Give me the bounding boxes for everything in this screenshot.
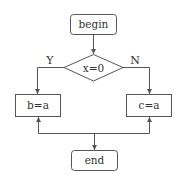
right-process-node: c=a [127,95,172,117]
edge-yes [38,68,65,95]
edge-yes-label: Y [45,54,54,67]
left-process-label: b=a [27,99,49,111]
left-process-node: b=a [16,95,61,117]
end-node: end [72,151,118,171]
end-label: end [85,154,105,166]
decision-label: x=0 [83,62,104,74]
edge-no [123,68,150,95]
decision-node: x=0 [64,55,123,82]
edge-no-label: N [130,54,140,67]
flowchart-canvas: begin x=0 Y N b=a c=a end [0,0,186,181]
begin-label: begin [79,18,109,30]
begin-node: begin [71,15,117,35]
right-process-label: c=a [139,99,160,111]
